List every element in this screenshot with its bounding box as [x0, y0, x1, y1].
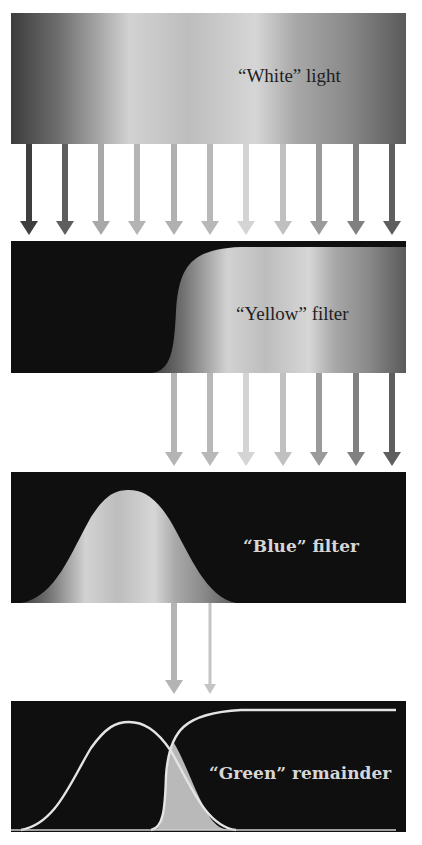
blue-to-green-arrows: [165, 603, 216, 694]
white-to-yellow-arrows: [20, 144, 401, 235]
arrows-layer: [0, 0, 422, 845]
yellow-to-blue-arrows: [165, 373, 401, 466]
